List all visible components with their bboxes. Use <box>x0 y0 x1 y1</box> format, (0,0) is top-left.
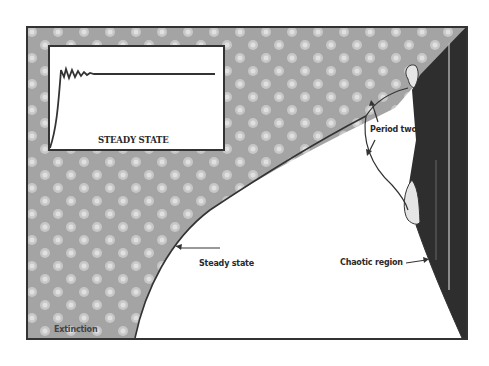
steady-state-arrow <box>176 246 220 248</box>
inset-title: STEADY STATE <box>98 135 168 145</box>
period-two-label: Period two <box>370 125 417 134</box>
chaotic-arrow <box>406 260 426 263</box>
chaotic-region-label: Chaotic region <box>340 258 403 267</box>
bifurcation-diagram <box>0 0 489 366</box>
period-two-arrowhead-down <box>366 149 372 156</box>
steady-state-label: Steady state <box>199 259 254 268</box>
period-two-arrow-down <box>369 140 375 152</box>
extinction-label: Extinction <box>54 325 97 334</box>
